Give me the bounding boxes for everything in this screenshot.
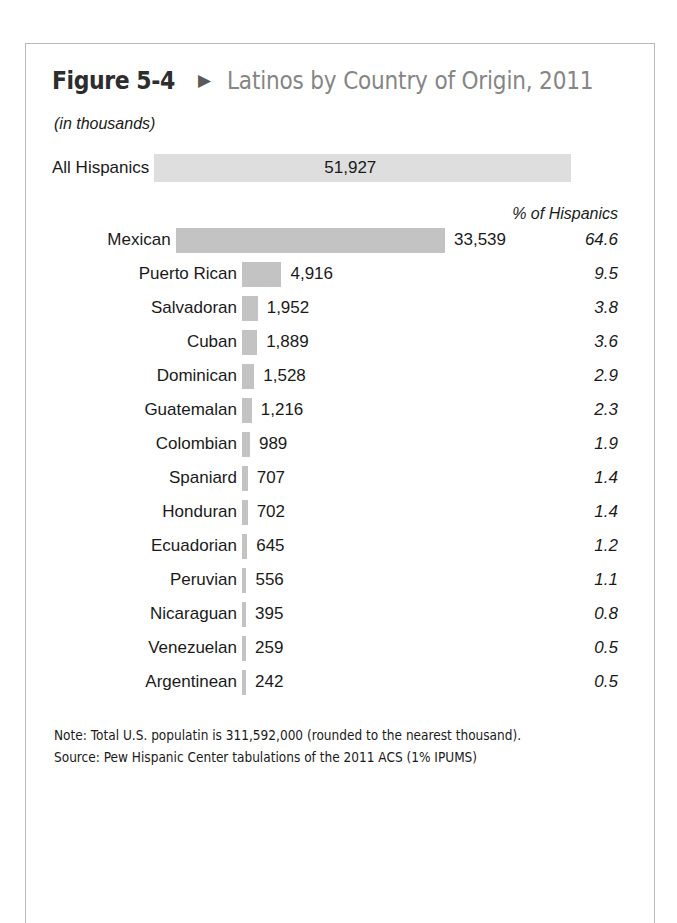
bar (176, 228, 445, 253)
figure-panel: Figure 5-4 ▶ Latinos by Country of Origi… (25, 43, 655, 923)
chart-row-total: All Hispanics 51,927 (52, 149, 632, 187)
row-label: Ecuadorian (52, 536, 242, 556)
bar (242, 670, 246, 695)
row-percent: 1.1 (506, 570, 632, 590)
chart-row: Dominican1,5282.9 (52, 359, 632, 393)
row-value: 1,528 (263, 366, 306, 386)
bar-track: 702 (242, 495, 506, 529)
row-label: Peruvian (52, 570, 242, 590)
bar (242, 500, 248, 525)
row-value: 556 (255, 570, 283, 590)
row-label: Mexican (52, 230, 176, 250)
source-line: Source: Pew Hispanic Center tabulations … (54, 747, 574, 769)
bar (242, 364, 254, 389)
row-label: All Hispanics (52, 158, 154, 178)
chart-row: Venezuelan2590.5 (52, 631, 632, 665)
bar (242, 568, 246, 593)
page-title: Latinos by Country of Origin, 2011 (227, 67, 593, 95)
row-label: Venezuelan (52, 638, 242, 658)
row-label: Dominican (52, 366, 242, 386)
row-percent: 1.4 (506, 502, 632, 522)
row-percent: 0.8 (506, 604, 632, 624)
row-label: Puerto Rican (52, 264, 242, 284)
row-label: Honduran (52, 502, 242, 522)
percent-column-header: % of Hispanics (506, 205, 632, 223)
figure-footnotes: Note: Total U.S. populatin is 311,592,00… (54, 725, 632, 769)
row-percent: 1.4 (506, 468, 632, 488)
bar (242, 636, 246, 661)
bar (242, 262, 281, 287)
chart-row: Mexican33,53964.6 (52, 223, 632, 257)
chart-row: Argentinean2420.5 (52, 665, 632, 699)
row-label: Guatemalan (52, 400, 242, 420)
bar (242, 330, 257, 355)
row-value: 1,216 (261, 400, 304, 420)
bar-track: 1,952 (242, 291, 506, 325)
row-percent: 64.6 (506, 230, 632, 250)
bar (242, 466, 248, 491)
figure-number: Figure 5-4 (52, 66, 175, 95)
chart-row: Salvadoran1,9523.8 (52, 291, 632, 325)
bar-track: 259 (242, 631, 506, 665)
row-label: Argentinean (52, 672, 242, 692)
triangle-right-icon: ▶ (198, 72, 211, 89)
bar-track: 4,916 (242, 257, 506, 291)
row-value: 242 (255, 672, 283, 692)
row-value: 33,539 (454, 230, 506, 250)
chart-row: Cuban1,8893.6 (52, 325, 632, 359)
bar (242, 432, 250, 457)
chart-row: Peruvian5561.1 (52, 563, 632, 597)
row-value: 1,889 (266, 332, 309, 352)
row-value: 259 (255, 638, 283, 658)
units-label: (in thousands) (54, 115, 632, 133)
column-header-row: % of Hispanics (52, 193, 632, 223)
bar (242, 534, 247, 559)
figure-header: Figure 5-4 ▶ Latinos by Country of Origi… (52, 66, 632, 95)
bar-track: 1,528 (242, 359, 506, 393)
row-percent: 1.9 (506, 434, 632, 454)
chart-row: Nicaraguan3950.8 (52, 597, 632, 631)
bar-track: 989 (242, 427, 506, 461)
row-percent: 0.5 (506, 672, 632, 692)
row-label: Cuban (52, 332, 242, 352)
row-value: 989 (259, 434, 287, 454)
bar (242, 296, 258, 321)
row-label: Nicaraguan (52, 604, 242, 624)
row-value: 395 (255, 604, 283, 624)
row-label: Salvadoran (52, 298, 242, 318)
bar (242, 602, 246, 627)
bar (242, 398, 252, 423)
row-percent: 2.9 (506, 366, 632, 386)
chart-row: Spaniard7071.4 (52, 461, 632, 495)
row-percent: 0.5 (506, 638, 632, 658)
chart-rows: Mexican33,53964.6Puerto Rican4,9169.5Sal… (52, 223, 632, 699)
bar-track: 33,539 (176, 223, 506, 257)
row-percent: 2.3 (506, 400, 632, 420)
chart-row: Puerto Rican4,9169.5 (52, 257, 632, 291)
chart-row: Colombian9891.9 (52, 427, 632, 461)
chart-row: Honduran7021.4 (52, 495, 632, 529)
row-value: 4,916 (290, 264, 333, 284)
row-value: 51,927 (324, 158, 376, 178)
row-percent: 3.6 (506, 332, 632, 352)
chart-row: Guatemalan1,2162.3 (52, 393, 632, 427)
bar-track: 242 (242, 665, 506, 699)
bar-track: 395 (242, 597, 506, 631)
row-percent: 1.2 (506, 536, 632, 556)
row-value: 645 (256, 536, 284, 556)
row-label: Spaniard (52, 468, 242, 488)
bar-track: 707 (242, 461, 506, 495)
chart-row: Ecuadorian6451.2 (52, 529, 632, 563)
bar-track: 645 (242, 529, 506, 563)
row-percent: 3.8 (506, 298, 632, 318)
row-value: 702 (257, 502, 285, 522)
bar-track: 556 (242, 563, 506, 597)
row-value: 1,952 (267, 298, 310, 318)
note-line: Note: Total U.S. populatin is 311,592,00… (54, 725, 574, 747)
bar-track: 51,927 (154, 149, 571, 187)
row-percent: 9.5 (506, 264, 632, 284)
chart-body: All Hispanics 51,927 % of Hispanics Mexi… (52, 149, 632, 699)
bar-track: 1,216 (242, 393, 506, 427)
row-value: 707 (257, 468, 285, 488)
row-label: Colombian (52, 434, 242, 454)
